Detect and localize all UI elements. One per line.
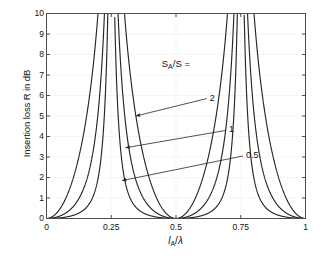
x-tick-label: 1 <box>291 223 321 232</box>
x-axis-label: lA/λ <box>46 235 305 247</box>
x-tick-labels: 00.250.50.751 <box>0 0 322 262</box>
insertion-loss-chart: 012345678910 00.250.50.751 Insertion los… <box>0 0 322 262</box>
x-tick-label: 0.25 <box>96 223 126 232</box>
x-axis-label-lambda: λ <box>178 235 183 246</box>
x-tick-label: 0.5 <box>161 223 191 232</box>
series-label-1: 1 <box>229 124 234 134</box>
x-tick-label: 0.75 <box>226 223 256 232</box>
series-group-title: SA/S = <box>162 58 190 70</box>
series-group-title-rest: /S = <box>173 58 190 69</box>
x-tick-label: 0 <box>32 223 62 232</box>
y-axis-label: Insertion loss R in dB <box>21 34 32 194</box>
series-label-2: 2 <box>210 93 215 103</box>
series-label-0-5: 0.5 <box>246 150 259 160</box>
